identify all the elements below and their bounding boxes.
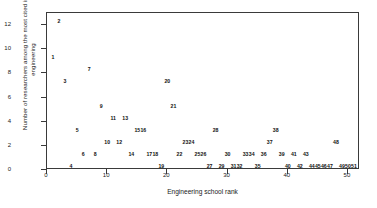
data-point-label: 10 <box>104 140 110 145</box>
data-point-label: 33 <box>243 152 249 157</box>
data-point-label: 17 <box>146 152 152 157</box>
scatter-chart: Number of researchers among the most cit… <box>0 0 377 208</box>
y-tick-label: 4 <box>0 118 11 124</box>
y-tick-label: 2 <box>0 142 11 148</box>
data-point-label: 24 <box>189 140 195 145</box>
data-point-label: 9 <box>100 104 103 109</box>
data-point-label: 11 <box>110 116 115 121</box>
data-point-label: 31 <box>231 164 237 169</box>
data-point-label: 48 <box>333 140 339 145</box>
data-point-label: 40 <box>285 164 291 169</box>
data-point-label: 3 <box>64 80 67 85</box>
data-point-label: 25 <box>195 152 201 157</box>
x-tick-mark <box>287 169 288 174</box>
data-point-label: 35 <box>255 164 261 169</box>
data-point-label: 45 <box>315 164 321 169</box>
data-point-label: 30 <box>225 152 231 157</box>
data-point-label: 34 <box>249 152 255 157</box>
data-point-label: 4 <box>70 164 73 169</box>
y-tick-label: 6 <box>0 94 11 100</box>
data-point-label: 50 <box>345 164 351 169</box>
x-tick-mark <box>46 169 47 174</box>
data-point-label: 26 <box>201 152 207 157</box>
data-point-label: 23 <box>183 140 189 145</box>
data-point-label: 21 <box>171 104 177 109</box>
data-point-label: 20 <box>164 80 170 85</box>
data-point-label: 46 <box>321 164 327 169</box>
y-tick-label: 10 <box>0 45 11 51</box>
x-tick-mark <box>347 169 348 174</box>
x-tick-mark <box>106 169 107 174</box>
data-point-label: 16 <box>140 128 146 133</box>
data-point-label: 49 <box>339 164 345 169</box>
data-point-label: 22 <box>177 152 183 157</box>
data-point-label: 38 <box>273 128 279 133</box>
data-point-label: 47 <box>327 164 333 169</box>
data-point-label: 27 <box>207 164 213 169</box>
data-point-label: 43 <box>303 152 309 157</box>
data-point-label: 44 <box>309 164 315 169</box>
data-point-label: 28 <box>213 128 219 133</box>
data-point-label: 15 <box>134 128 140 133</box>
y-tick-label: 12 <box>0 21 11 27</box>
data-point-label: 39 <box>279 152 285 157</box>
x-tick-mark <box>227 169 228 174</box>
data-point-label: 18 <box>152 152 158 157</box>
data-point-label: 2 <box>58 19 61 24</box>
data-point-label: 8 <box>94 152 97 157</box>
data-point-label: 29 <box>219 164 225 169</box>
data-point-label: 1 <box>52 56 55 61</box>
x-tick-mark <box>166 169 167 174</box>
data-point-label: 7 <box>88 68 91 73</box>
data-point-label: 19 <box>158 164 164 169</box>
plot-area: 1234567891011121314151617181920212223242… <box>46 12 359 169</box>
y-axis-title: Number of researchers among the most cit… <box>21 0 36 135</box>
data-point-label: 5 <box>76 128 79 133</box>
data-point-label: 51 <box>351 164 357 169</box>
data-point-label: 36 <box>261 152 267 157</box>
y-tick-label: 0 <box>0 166 11 172</box>
data-point-label: 14 <box>128 152 134 157</box>
data-point-label: 42 <box>297 164 303 169</box>
data-point-label: 12 <box>116 140 122 145</box>
data-point-label: 32 <box>237 164 243 169</box>
x-axis-title: Engineering school rank <box>46 188 359 195</box>
data-point-label: 37 <box>267 140 273 145</box>
y-tick-label: 8 <box>0 69 11 75</box>
data-point-label: 41 <box>291 152 297 157</box>
data-point-label: 6 <box>82 152 85 157</box>
data-point-label: 13 <box>122 116 128 121</box>
